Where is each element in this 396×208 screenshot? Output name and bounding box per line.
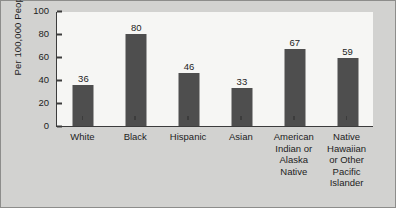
x-axis-category-label: White bbox=[56, 131, 109, 143]
x-axis-tick bbox=[187, 116, 189, 120]
category-label-line: Native bbox=[320, 131, 373, 143]
bar-value-label: 33 bbox=[237, 76, 248, 87]
chart-figure: Per 100,000 People 020406080100 36804633… bbox=[0, 0, 396, 208]
y-tick-label: 20 bbox=[38, 97, 49, 108]
bar-value-label: 46 bbox=[184, 61, 195, 72]
x-axis-tick bbox=[82, 116, 84, 120]
category-label-line: Native bbox=[267, 166, 320, 178]
category-label-line: White bbox=[56, 131, 109, 143]
bar-slot: 36 bbox=[57, 12, 110, 126]
bar-value-label: 59 bbox=[342, 46, 353, 57]
x-axis-category-label: Hispanic bbox=[162, 131, 215, 143]
x-axis-category-label: Black bbox=[109, 131, 162, 143]
y-tick-label: 100 bbox=[33, 5, 49, 16]
category-label-line: Hawaiian bbox=[320, 143, 373, 155]
category-label-line: Black bbox=[109, 131, 162, 143]
category-label-line: Alaska bbox=[267, 154, 320, 166]
category-label-line: Hispanic bbox=[162, 131, 215, 143]
bar-slot: 80 bbox=[110, 12, 163, 126]
category-label-line: Indian or bbox=[267, 143, 320, 155]
plot-area: 020406080100 368046336759 bbox=[56, 12, 373, 127]
bar[interactable] bbox=[337, 58, 358, 126]
bar-value-label: 67 bbox=[289, 37, 300, 48]
x-axis-tick bbox=[346, 116, 348, 120]
bar[interactable] bbox=[284, 49, 305, 126]
x-axis-category-label: Asian bbox=[215, 131, 268, 143]
category-label-line: Islander bbox=[320, 177, 373, 189]
y-axis-title: Per 100,000 People bbox=[12, 0, 23, 93]
bar-slot: 46 bbox=[163, 12, 216, 126]
y-tick-label: 40 bbox=[38, 74, 49, 85]
y-tick-label: 0 bbox=[44, 120, 49, 131]
bar-slot: 33 bbox=[216, 12, 269, 126]
category-label-line: Pacific bbox=[320, 166, 373, 178]
bar[interactable] bbox=[73, 85, 94, 126]
x-axis-category-label: AmericanIndian orAlaskaNative bbox=[267, 131, 320, 177]
bar-value-label: 36 bbox=[78, 73, 89, 84]
y-tick-label: 60 bbox=[38, 51, 49, 62]
bar-slot: 67 bbox=[268, 12, 321, 126]
x-axis-category-label: NativeHawaiianor OtherPacificIslander bbox=[320, 131, 373, 189]
bar-slot: 59 bbox=[321, 12, 374, 126]
category-label-line: Asian bbox=[215, 131, 268, 143]
x-axis-tick bbox=[134, 116, 136, 120]
category-label-line: or Other bbox=[320, 154, 373, 166]
bar[interactable] bbox=[126, 34, 147, 126]
bar[interactable] bbox=[179, 73, 200, 126]
bar[interactable] bbox=[231, 88, 252, 126]
bar-series: 368046336759 bbox=[57, 12, 373, 126]
category-label-line: American bbox=[267, 131, 320, 143]
x-axis-tick bbox=[293, 116, 295, 120]
bar-value-label: 80 bbox=[131, 22, 142, 33]
y-tick-label: 80 bbox=[38, 28, 49, 39]
x-axis-tick bbox=[240, 116, 242, 120]
